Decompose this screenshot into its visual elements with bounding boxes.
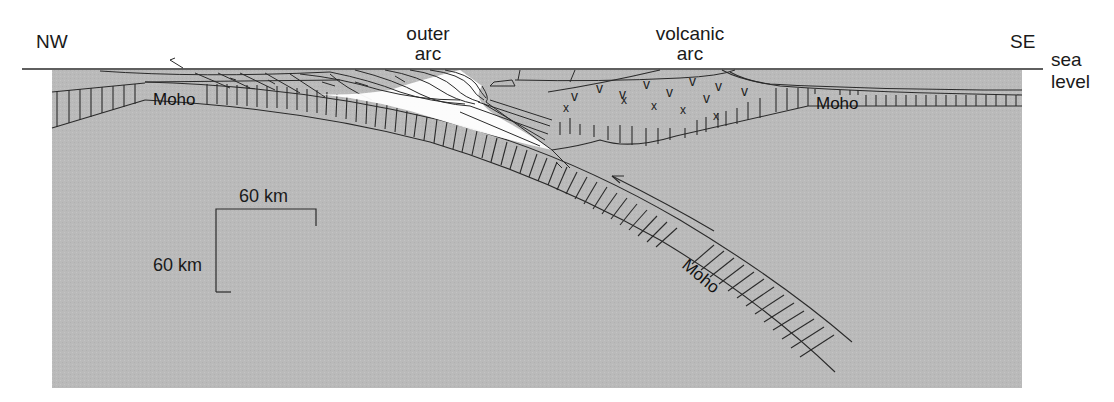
volcanic-v-mark: v <box>689 73 696 89</box>
volcanic-v-mark: v <box>715 78 722 94</box>
volcanic-symbols: v v v v v v v v v x x x x x <box>0 0 1114 402</box>
plutonic-x-mark: x <box>680 103 686 117</box>
scale-horizontal-label: 60 km <box>239 186 288 206</box>
volcanic-v-mark: v <box>596 80 603 96</box>
volcanic-v-mark: v <box>666 84 673 100</box>
volcanic-v-mark: v <box>571 88 578 104</box>
plutonic-x-mark: x <box>563 101 569 115</box>
plutonic-x-mark: x <box>651 99 657 113</box>
volcanic-v-mark: v <box>703 90 710 106</box>
plutonic-x-mark: x <box>621 93 627 107</box>
volcanic-v-mark: v <box>741 83 748 99</box>
plutonic-x-mark: x <box>713 109 719 123</box>
volcanic-v-mark: v <box>643 76 650 92</box>
scale-vertical-label: 60 km <box>153 255 202 275</box>
